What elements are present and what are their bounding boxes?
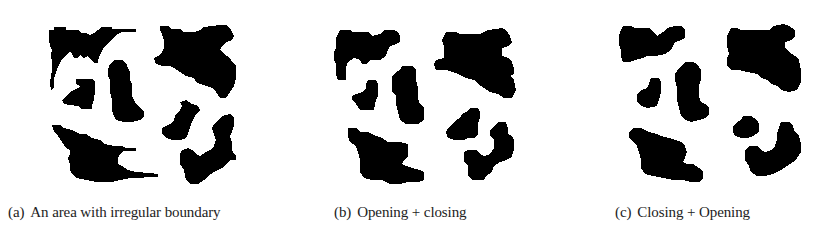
blob-bottom-left (348, 128, 424, 184)
caption-b: (b)Opening + closing (334, 204, 466, 221)
blob-top-left (619, 26, 685, 62)
blob-middle-right (733, 116, 759, 138)
blob-vertical-left (108, 60, 144, 122)
blob-vertical-left (675, 62, 709, 122)
caption-c-label: (c) (615, 204, 631, 220)
blob-top-left (334, 30, 400, 80)
caption-c: (c)Closing + Opening (615, 204, 750, 221)
blob-vertical-left (392, 66, 424, 124)
caption-a: (a)An area with irregular boundary (8, 204, 221, 221)
blob-top-right (154, 25, 236, 98)
blob-small-left (62, 79, 95, 109)
morphology-figure: (a)An area with irregular boundary (b)Op… (0, 0, 817, 248)
caption-a-text: An area with irregular boundary (30, 204, 220, 220)
caption-a-label: (a) (8, 204, 24, 220)
blob-top-right (727, 24, 801, 92)
blob-top-right (434, 28, 516, 98)
blob-middle-right (446, 108, 480, 140)
blob-bottom-left (629, 128, 703, 182)
blob-small-left (637, 78, 661, 108)
panel-b-image (272, 0, 544, 200)
panel-c-image (545, 0, 817, 200)
blob-bottom-left (52, 125, 158, 182)
blob-middle-right (162, 100, 200, 140)
blob-small-left (352, 80, 378, 110)
caption-b-label: (b) (334, 204, 351, 220)
caption-c-text: Closing + Opening (637, 204, 750, 220)
caption-b-text: Opening + closing (357, 204, 466, 220)
panel-a-image (0, 0, 272, 200)
